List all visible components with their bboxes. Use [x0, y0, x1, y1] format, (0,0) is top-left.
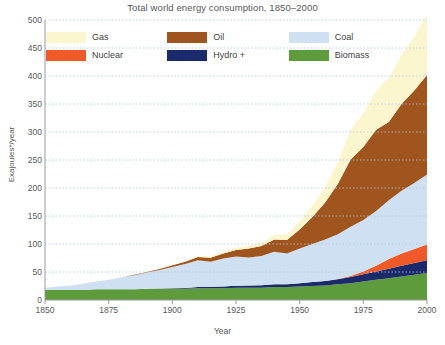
x-tick-label-1900: 1900: [152, 305, 192, 315]
y-tick-label-300: 300: [4, 128, 42, 137]
x-tick-label-1975: 1975: [343, 305, 383, 315]
y-tick-label-150: 150: [4, 212, 42, 221]
x-tick-label-1925: 1925: [216, 305, 256, 315]
legend-item-hydro[interactable]: Hydro +: [167, 46, 284, 64]
y-tick-label-450: 450: [4, 44, 42, 53]
legend-label: Hydro +: [213, 50, 245, 60]
x-tick-label-1950: 1950: [280, 305, 320, 315]
y-tick-label-100: 100: [4, 240, 42, 249]
legend-item-oil[interactable]: Oil: [167, 28, 284, 46]
legend-item-biomass[interactable]: Biomass: [289, 46, 406, 64]
chart-legend: GasOilCoalNuclearHydro +Biomass: [46, 28, 406, 64]
legend-swatch-icon: [46, 32, 86, 43]
legend-swatch-icon: [289, 32, 329, 43]
y-tick-label-500: 500: [4, 16, 42, 25]
energy-consumption-chart: Total world energy consumption, 1850–200…: [0, 0, 445, 345]
x-tick-label-1850: 1850: [25, 305, 65, 315]
legend-swatch-icon: [167, 50, 207, 61]
y-tick-label-250: 250: [4, 156, 42, 165]
legend-label: Biomass: [335, 50, 370, 60]
legend-swatch-icon: [289, 50, 329, 61]
y-tick-label-350: 350: [4, 100, 42, 109]
x-tick-label-2000: 2000: [407, 305, 445, 315]
legend-item-coal[interactable]: Coal: [289, 28, 406, 46]
legend-swatch-icon: [167, 32, 207, 43]
legend-swatch-icon: [46, 50, 86, 61]
chart-title: Total world energy consumption, 1850–200…: [0, 2, 445, 13]
y-tick-label-0: 0: [4, 296, 42, 305]
x-tick-label-1875: 1875: [89, 305, 129, 315]
legend-label: Oil: [213, 32, 224, 42]
y-tick-label-400: 400: [4, 72, 42, 81]
legend-label: Gas: [92, 32, 109, 42]
legend-label: Coal: [335, 32, 354, 42]
legend-label: Nuclear: [92, 50, 123, 60]
legend-item-nuclear[interactable]: Nuclear: [46, 46, 163, 64]
legend-item-gas[interactable]: Gas: [46, 28, 163, 46]
y-tick-label-200: 200: [4, 184, 42, 193]
x-axis-label: Year: [0, 326, 445, 336]
y-tick-label-50: 50: [4, 268, 42, 277]
y-axis-ticks: 050100150200250300350400450500: [0, 0, 42, 345]
